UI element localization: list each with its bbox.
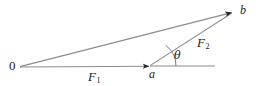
vector-f2-line bbox=[150, 13, 232, 66]
vector-label-f1: F1 bbox=[88, 70, 100, 83]
point-label-a: a bbox=[149, 68, 155, 80]
point-label-b: b bbox=[240, 4, 246, 16]
vector-label-f2-base: F bbox=[197, 35, 205, 50]
angle-label-theta: θ bbox=[174, 50, 181, 61]
vector-label-f2: F2 bbox=[197, 36, 209, 49]
vector-f1-line bbox=[20, 66, 149, 67]
vector-diagram-figure: 0 a b θ F1 F2 bbox=[0, 0, 256, 86]
vector-diagram-canvas bbox=[0, 0, 256, 86]
vector-label-f1-base: F bbox=[88, 69, 96, 84]
point-label-origin: 0 bbox=[9, 59, 16, 72]
vector-label-f1-subscript: 1 bbox=[96, 76, 100, 85]
vector-label-f2-subscript: 2 bbox=[205, 42, 209, 51]
